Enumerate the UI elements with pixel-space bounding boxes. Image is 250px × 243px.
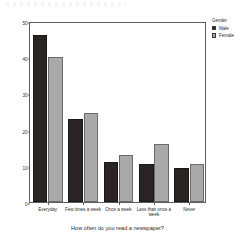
legend-swatch-icon — [212, 26, 216, 30]
bar-female-2 — [119, 155, 134, 202]
scan-artifact — [6, 2, 126, 7]
bar-male-2 — [104, 162, 119, 202]
y-tick-mark — [28, 95, 31, 96]
x-tick-mark — [154, 202, 155, 205]
y-tick-mark — [28, 131, 31, 132]
bar-female-1 — [84, 113, 99, 202]
bar-female-3 — [154, 144, 169, 202]
legend-swatch-icon — [212, 33, 216, 37]
bar-female-0 — [48, 57, 63, 202]
legend-rows: MaleFemale — [212, 26, 250, 39]
y-tick-label: 40 — [22, 57, 27, 62]
x-tick-mark — [48, 202, 49, 205]
bar-male-1 — [68, 119, 83, 202]
x-axis-title: How often do you read a newspaper? — [29, 225, 206, 231]
legend: Gender MaleFemale — [212, 18, 250, 41]
legend-item-male[interactable]: Male — [212, 26, 250, 31]
y-tick-label: 50 — [22, 21, 27, 26]
y-tick-label: 30 — [22, 93, 27, 98]
y-tick-mark — [28, 167, 31, 168]
legend-item-label: Male — [219, 26, 229, 31]
x-tick-mark — [189, 202, 190, 205]
y-tick-label: 10 — [22, 165, 27, 170]
y-tick-label: 20 — [22, 129, 27, 134]
bar-male-0 — [33, 35, 48, 202]
chart-container: Percent 01020304050 EverydayFew times a … — [0, 0, 250, 243]
bar-female-4 — [190, 164, 205, 202]
legend-item-label: Female — [219, 33, 234, 38]
x-tick-label: Never — [166, 207, 212, 213]
legend-title: Gender — [212, 18, 250, 23]
bar-male-3 — [139, 164, 154, 202]
y-tick-mark — [28, 23, 31, 24]
plot-area: Percent 01020304050 EverydayFew times a … — [29, 22, 206, 203]
bar-male-4 — [174, 168, 189, 202]
legend-item-female[interactable]: Female — [212, 33, 250, 38]
x-tick-mark — [119, 202, 120, 205]
x-tick-mark — [83, 202, 84, 205]
y-tick-mark — [28, 59, 31, 60]
